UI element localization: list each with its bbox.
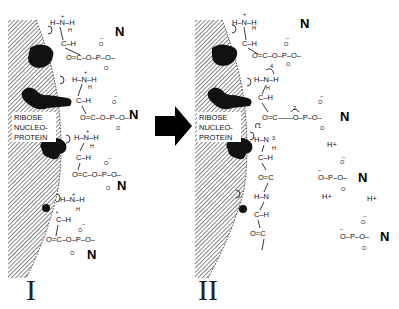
svg-text:N: N [117, 178, 126, 193]
svg-text:–: – [320, 93, 324, 99]
panel-II: RIBOSE NUCLEO- PROTEIN H–N–H+H C–H O=C–O… [195, 11, 389, 306]
svg-text:O=C——O–P–O–: O=C——O–P–O– [262, 113, 323, 122]
svg-text:–: – [286, 35, 290, 41]
svg-text:4: 4 [270, 63, 273, 69]
svg-text:O: O [286, 61, 291, 67]
svg-text:O=C–O–P–O–: O=C–O–P–O– [252, 51, 302, 60]
svg-text:O: O [104, 65, 109, 71]
svg-text:C–H: C–H [254, 210, 269, 219]
protein-blob [239, 205, 247, 213]
svg-text:H+: H+ [367, 194, 377, 203]
svg-text:O: O [320, 125, 325, 131]
svg-text:–: – [82, 221, 86, 227]
free-protons: H+ H+ H+ [322, 140, 377, 203]
aminoacyl-unit: H–N–H+H C–H O=C–O–P–O– O– O N [232, 11, 309, 67]
svg-text:O: O [341, 186, 346, 192]
svg-text:N: N [358, 170, 367, 185]
svg-text:–: – [342, 154, 346, 160]
svg-text:+: + [243, 11, 246, 17]
svg-text:O–P–O–: O–P–O– [340, 232, 370, 241]
svg-text:C–H: C–H [56, 215, 71, 224]
aminoacyl-unit: H–N–H+H C–H O=C–O–P–O– O– O N [50, 13, 124, 71]
svg-text:2: 2 [293, 105, 296, 111]
svg-text:O: O [112, 99, 117, 105]
svg-text:N: N [300, 16, 309, 31]
svg-text:O: O [99, 41, 104, 47]
svg-text:N: N [115, 24, 124, 39]
svg-text:N: N [87, 247, 96, 262]
svg-text:O=C–O–P–O–: O=C–O–P–O– [66, 53, 116, 62]
svg-text:C–H: C–H [61, 39, 76, 48]
svg-text:H–N–H: H–N–H [254, 75, 279, 84]
svg-text:O: O [78, 227, 83, 233]
svg-text:H+: H+ [327, 140, 337, 149]
svg-text:–: – [100, 35, 104, 41]
svg-text:O: O [318, 99, 323, 105]
svg-text:–: – [114, 93, 118, 99]
peptide-chain: 1 H–N3 H C–H O=C H–N C–H O=C [250, 123, 276, 250]
svg-text:3: 3 [272, 135, 275, 141]
svg-text:H–N: H–N [254, 135, 269, 144]
panel-label-II: II [198, 273, 218, 306]
svg-text:H: H [88, 84, 92, 90]
protein-blob [42, 204, 50, 212]
free-phosphate: O–P–O–– O– O N [318, 154, 367, 192]
diagram-canvas: RIBOSE NUCLEO- PROTEIN H–N–H+H C–H O=C–O… [0, 0, 399, 309]
svg-text:H: H [266, 85, 270, 91]
svg-text:N: N [129, 107, 138, 122]
svg-text:H–N: H–N [254, 192, 269, 201]
svg-text:C–H: C–H [76, 153, 91, 162]
svg-text:H: H [68, 27, 72, 33]
svg-text:H: H [90, 143, 94, 149]
svg-text:+: + [86, 128, 89, 134]
svg-text:+: + [72, 191, 75, 197]
svg-text:H–N–H: H–N–H [72, 75, 97, 84]
svg-text:O: O [116, 125, 121, 131]
svg-text:O=C–O–P–O–: O=C–O–P–O– [80, 113, 130, 122]
aminoacyl-unit: H–N–H+H C–H O=C–O–P–O– O– O N [72, 128, 126, 193]
svg-text:H: H [272, 145, 276, 151]
svg-text:+: + [84, 69, 87, 75]
svg-text:H: H [252, 25, 256, 31]
svg-text:O=C: O=C [250, 229, 266, 238]
svg-text:N: N [380, 229, 389, 244]
svg-text:O=C–O–P–O–: O=C–O–P–O– [46, 235, 96, 244]
svg-text:O: O [362, 245, 367, 251]
panel-label-I: I [26, 273, 36, 306]
reacting-unit: H–N–HH 4 C–H O=C——O–P–O– 2 O– O N [254, 63, 349, 131]
svg-text:+: + [61, 13, 64, 19]
svg-text:–: – [363, 213, 367, 219]
svg-text:O: O [70, 250, 75, 256]
svg-text:C–H: C–H [76, 96, 91, 105]
svg-text:O–P–O–: O–P–O– [318, 173, 348, 182]
svg-text:N: N [340, 109, 349, 124]
svg-text:H: H [76, 206, 80, 212]
svg-text:O: O [284, 41, 289, 47]
svg-text:H–N–H: H–N–H [74, 133, 99, 142]
svg-text:C–H: C–H [258, 153, 273, 162]
free-phosphate: O–P–O–– O– O N [340, 213, 389, 251]
transition-arrow [155, 106, 192, 146]
aminoacyl-unit: H–N–H+H C–H O=C–O–P–O– O– O N [72, 69, 138, 131]
svg-text:–: – [108, 155, 112, 161]
svg-text:1: 1 [258, 123, 261, 129]
svg-text:H+: H+ [322, 192, 332, 201]
svg-text:C–H: C–H [242, 39, 257, 48]
svg-text:O: O [361, 219, 366, 225]
svg-text:C–H: C–H [258, 93, 273, 102]
svg-text:O=C: O=C [258, 173, 274, 182]
svg-text:O: O [106, 185, 111, 191]
svg-text:H–N–H: H–N–H [50, 18, 75, 27]
panel-I: RIBOSE NUCLEO- PROTEIN H–N–H+H C–H O=C–O… [8, 13, 138, 306]
svg-text:O=C–O–P–O–: O=C–O–P–O– [72, 170, 122, 179]
